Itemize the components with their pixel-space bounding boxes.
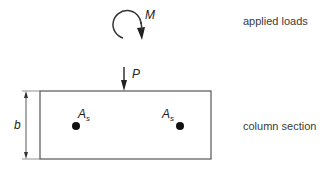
moment-label: M — [145, 8, 155, 22]
axial-load-label: P — [132, 67, 140, 81]
diagram-canvas: M P b As As applied loads column section — [0, 0, 323, 173]
steel-area-left-sub: s — [86, 114, 90, 123]
moment-icon — [113, 11, 145, 40]
steel-area-left-base: A — [78, 107, 86, 121]
rebar-left-icon — [72, 122, 80, 130]
steel-area-right-label: As — [162, 107, 174, 121]
steel-area-right-base: A — [162, 107, 170, 121]
dimension-b-icon — [22, 91, 40, 159]
column-section-label: column section — [243, 120, 316, 132]
steel-area-right-sub: s — [170, 114, 174, 123]
axial-load-arrow-icon — [121, 67, 127, 91]
applied-loads-label: applied loads — [243, 15, 308, 27]
rebar-right-icon — [176, 122, 184, 130]
column-section-rect — [40, 91, 211, 159]
steel-area-left-label: As — [78, 107, 90, 121]
width-label: b — [14, 118, 21, 132]
